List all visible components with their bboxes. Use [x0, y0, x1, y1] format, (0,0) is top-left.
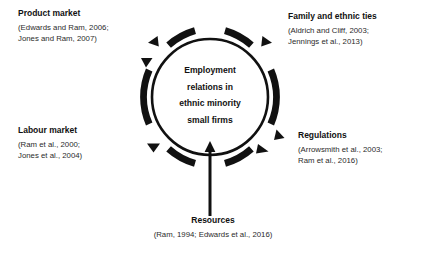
diagram-canvas: Employment relations in ethnic minority … [0, 0, 426, 254]
center-label-line-1: Employment [157, 62, 263, 79]
factor-citation-labour-market-line-2: Jones et al., 2004) [18, 151, 82, 162]
resource-arrow [205, 141, 216, 216]
arrowhead-top-left [148, 36, 159, 47]
factor-label-labour-market: Labour market (Ram et al., 2000; Jones e… [18, 125, 82, 161]
resource-arrow-head [205, 141, 216, 152]
factor-heading-family-ties: Family and ethnic ties [288, 11, 377, 22]
factor-citation-labour-market-line-1: (Ram et al., 2000; [18, 140, 82, 151]
arrowhead-bottom-right [256, 144, 269, 154]
factor-citation-family-ties-line-2: Jennings et al., 2013) [288, 37, 377, 48]
arrowhead-left [141, 58, 153, 68]
factor-label-resources: Resources (Ram, 1994; Edwards et al., 20… [0, 215, 426, 241]
arrowhead-right [274, 130, 285, 141]
factor-citation-resources-line-1: (Ram, 1994; Edwards et al., 2016) [0, 230, 426, 241]
arrowhead-top-right [261, 36, 272, 47]
factor-citation-regulations-line-1: (Arrowsmith et al., 2003; [298, 145, 383, 156]
factor-heading-labour-market: Labour market [18, 125, 82, 136]
ring-segment-left [144, 70, 150, 124]
center-label-line-4: small firms [157, 112, 263, 129]
factor-label-family-ties: Family and ethnic ties (Aldrich and Clif… [288, 11, 377, 47]
factor-citation-product-market-line-2: Jones and Ram, 2007) [18, 34, 109, 45]
factor-citation-regulations-line-2: Ram et al., 2016) [298, 156, 383, 167]
factor-citation-product-market-line-1: (Edwards and Ram, 2006; [18, 23, 109, 34]
arrowhead-bottom-left [147, 144, 160, 153]
factor-citation-family-ties-line-1: (Aldrich and Cliff, 2003; [288, 26, 377, 37]
center-label: Employment relations in ethnic minority … [157, 62, 263, 128]
center-label-line-2: relations in [157, 79, 263, 96]
factor-heading-resources: Resources [0, 215, 426, 226]
factor-heading-product-market: Product market [18, 8, 109, 19]
factor-label-regulations: Regulations (Arrowsmith et al., 2003; Ra… [298, 130, 383, 166]
ring-segment-right [271, 70, 277, 124]
factor-label-product-market: Product market (Edwards and Ram, 2006; J… [18, 8, 109, 44]
factor-heading-regulations: Regulations [298, 130, 383, 141]
center-label-line-3: ethnic minority [157, 95, 263, 112]
